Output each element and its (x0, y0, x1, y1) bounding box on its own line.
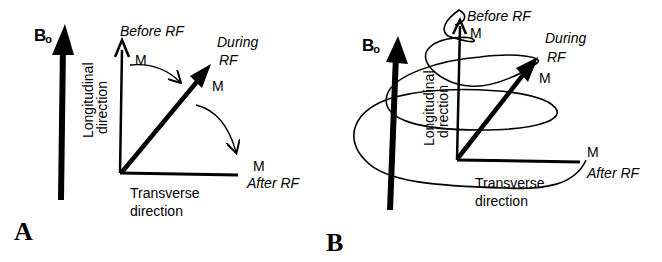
longitudinal-axis-label-line2: direction (436, 85, 451, 138)
magnetization-vector-during (122, 72, 205, 172)
transverse-axis (120, 173, 238, 175)
vector-m-after: M (587, 144, 599, 160)
transverse-axis (457, 160, 580, 162)
before-rf-label: Before RF (467, 8, 531, 24)
vector-m-after: M (253, 158, 265, 174)
magnetization-vector-during (458, 66, 530, 158)
vector-m-during: M (539, 70, 551, 86)
transverse-axis-label-line1: Transverse (475, 175, 545, 191)
b0-field-arrow (61, 45, 63, 200)
transverse-axis-label-line2: direction (475, 193, 528, 209)
after-rf-label: After RF (587, 165, 639, 181)
b0-field-arrow (390, 55, 396, 210)
b0-label: Bo (362, 38, 379, 57)
vector-m-during: M (212, 78, 224, 94)
during-rf-label-line1: During (545, 30, 586, 46)
transverse-axis-label-line1: Transverse (130, 185, 200, 201)
b0-label: Bo (34, 28, 51, 47)
after-rf-label: After RF (247, 175, 299, 191)
panel-label-a: A (14, 217, 33, 247)
transverse-axis-label-line2: direction (130, 203, 183, 219)
rotation-arrow-2 (196, 105, 236, 152)
during-rf-label-line2: RF (547, 49, 566, 65)
during-rf-label-line1: During (217, 34, 258, 50)
vector-m-before: M (135, 52, 147, 68)
longitudinal-axis (457, 26, 460, 160)
before-rf-label: Before RF (120, 23, 184, 39)
longitudinal-axis (120, 50, 122, 173)
panel-label-b: B (326, 228, 343, 258)
during-rf-label-line2: RF (219, 52, 238, 68)
longitudinal-axis-label-line2: direction (95, 81, 110, 134)
vector-m-before: M (470, 25, 482, 41)
